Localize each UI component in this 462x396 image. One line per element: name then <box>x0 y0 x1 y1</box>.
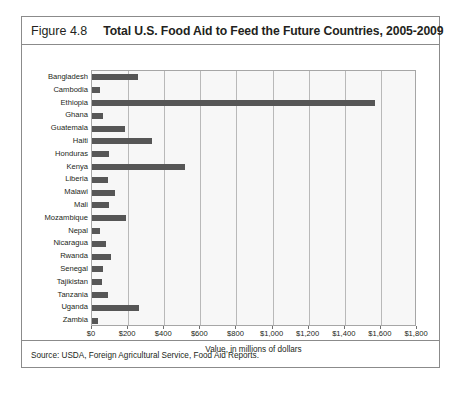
bar <box>92 113 103 119</box>
bar-row <box>92 225 100 238</box>
y-axis-label: Guatemala <box>22 123 88 132</box>
y-axis-label: Nepal <box>22 226 88 235</box>
y-axis-label: Mali <box>22 200 88 209</box>
bar-row <box>92 186 115 199</box>
bar-row <box>92 71 138 84</box>
y-axis-label: Uganda <box>22 302 88 311</box>
figure-title: Total U.S. Food Aid to Feed the Future C… <box>103 24 443 38</box>
y-axis-label: Mozambique <box>22 213 88 222</box>
bar <box>92 177 108 183</box>
bar-row <box>92 237 106 250</box>
bar <box>92 151 109 157</box>
bar <box>92 74 138 80</box>
bar <box>92 241 106 247</box>
y-axis-label: Liberia <box>22 174 88 183</box>
y-axis-category-labels: BangladeshCambodiaEthiopiaGhanaGuatemala… <box>22 70 88 326</box>
bar <box>92 228 100 234</box>
x-axis-tick-label: $1,200 <box>296 329 319 338</box>
x-axis-tick-label: $400 <box>155 329 172 338</box>
figure-header: Figure 4.8 Total U.S. Food Aid to Feed t… <box>22 17 439 44</box>
bar <box>92 100 375 106</box>
bar-row <box>92 212 126 225</box>
y-axis-label: Zambia <box>22 315 88 324</box>
bar-series <box>92 71 415 325</box>
y-axis-label: Kenya <box>22 162 88 171</box>
bar-row <box>92 148 109 161</box>
x-axis-tick-label: $200 <box>119 329 136 338</box>
y-axis-label: Nicaragua <box>22 238 88 247</box>
bar-row <box>92 97 375 110</box>
bar-row <box>92 135 152 148</box>
bar-row <box>92 109 103 122</box>
y-axis-label: Honduras <box>22 149 88 158</box>
x-axis-tick-label: $1,600 <box>368 329 391 338</box>
bar-row <box>92 301 139 314</box>
x-axis-tick-label: $1,800 <box>404 329 427 338</box>
bar-row <box>92 289 108 302</box>
x-axis-tick-label: $1,400 <box>332 329 355 338</box>
x-axis-tick-label: $800 <box>227 329 244 338</box>
y-axis-label: Rwanda <box>22 251 88 260</box>
y-axis-label: Cambodia <box>22 85 88 94</box>
bar-row <box>92 173 108 186</box>
bar <box>92 254 111 260</box>
bar <box>92 190 115 196</box>
bar <box>92 266 103 272</box>
bar <box>92 279 102 285</box>
source-divider <box>22 340 439 341</box>
plot-area <box>91 70 416 326</box>
chart-area: BangladeshCambodiaEthiopiaGhanaGuatemala… <box>22 45 441 337</box>
y-axis-label: Ghana <box>22 110 88 119</box>
source-note: Source: USDA, Foreign Agricultural Servi… <box>31 351 259 360</box>
y-axis-label: Senegal <box>22 264 88 273</box>
bar-row <box>92 161 185 174</box>
y-axis-label: Malawi <box>22 187 88 196</box>
bar <box>92 318 98 324</box>
y-axis-label: Bangladesh <box>22 72 88 81</box>
bar-row <box>92 199 109 212</box>
y-axis-label: Tanzania <box>22 290 88 299</box>
y-axis-label: Tajikistan <box>22 277 88 286</box>
x-axis-tick-label: $0 <box>87 329 95 338</box>
figure-number: Figure 4.8 <box>31 24 87 38</box>
bar-row <box>92 263 103 276</box>
bar-row <box>92 122 125 135</box>
x-axis-tick-label: $600 <box>191 329 208 338</box>
bar-row <box>92 84 100 97</box>
y-axis-label: Haiti <box>22 136 88 145</box>
figure-frame: Figure 4.8 Total U.S. Food Aid to Feed t… <box>21 16 440 368</box>
x-axis-tick-label: $1,000 <box>260 329 283 338</box>
bar <box>92 87 100 93</box>
bar <box>92 138 152 144</box>
bar <box>92 164 185 170</box>
bar <box>92 126 125 132</box>
bar-row <box>92 276 102 289</box>
bar <box>92 292 108 298</box>
bar-row <box>92 250 111 263</box>
bar <box>92 305 139 311</box>
bar <box>92 202 109 208</box>
y-axis-label: Ethiopia <box>22 98 88 107</box>
bar <box>92 215 126 221</box>
